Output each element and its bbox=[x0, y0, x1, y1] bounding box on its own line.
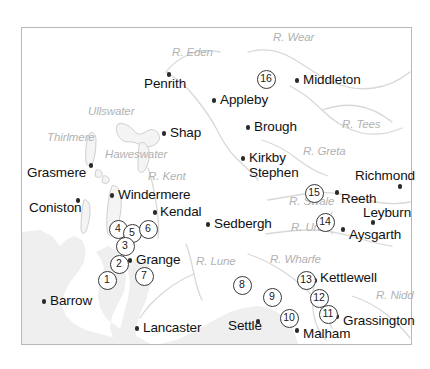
lake-coniston bbox=[81, 200, 90, 234]
town-dot bbox=[135, 326, 140, 331]
lake-rydal-small bbox=[102, 176, 109, 184]
map-marker-10[interactable]: 10 bbox=[280, 309, 299, 328]
town-label: Barrow bbox=[50, 294, 92, 308]
lake-grasmere-small bbox=[95, 170, 102, 178]
town-dot bbox=[212, 98, 217, 103]
hydro-label: R. Wharfe bbox=[270, 254, 321, 266]
map-marker-2[interactable]: 2 bbox=[110, 255, 129, 274]
town-dot bbox=[341, 227, 346, 232]
town-dot bbox=[335, 190, 340, 195]
map-container: PenrithApplebyMiddletonShapBroughKirkbyS… bbox=[0, 0, 430, 369]
town-label: Windermere bbox=[118, 188, 191, 202]
town-label: Middleton bbox=[303, 73, 361, 87]
hydro-label: Haweswater bbox=[105, 149, 167, 161]
town-dot bbox=[153, 210, 158, 215]
town-dot bbox=[76, 198, 81, 203]
hydro-label: Thirlmere bbox=[47, 132, 95, 144]
town-dot bbox=[42, 299, 47, 304]
town-label: Brough bbox=[254, 120, 297, 134]
town-label: Leyburn bbox=[363, 206, 411, 220]
town-label: Malham bbox=[303, 327, 350, 341]
map-marker-9[interactable]: 9 bbox=[263, 288, 282, 307]
town-dot bbox=[371, 220, 376, 225]
hydro-label: Ullswater bbox=[88, 106, 134, 118]
town-dot bbox=[206, 222, 211, 227]
map-marker-16[interactable]: 16 bbox=[257, 70, 276, 89]
town-label: Aysgarth bbox=[349, 228, 401, 242]
town-dot bbox=[110, 193, 115, 198]
hydro-label: R. Lune bbox=[196, 256, 236, 268]
town-label: KirkbyStephen bbox=[249, 151, 299, 180]
town-label: Sedbergh bbox=[214, 217, 272, 231]
town-label: Appleby bbox=[220, 93, 268, 107]
hydro-label: R. Nidd bbox=[376, 290, 414, 302]
hydro-label: R. Eden bbox=[172, 47, 213, 59]
map-marker-13[interactable]: 13 bbox=[297, 271, 316, 290]
hydro-label: R. Tees bbox=[342, 119, 381, 131]
town-label: Lancaster bbox=[143, 321, 201, 335]
town-label: Reeth bbox=[341, 192, 377, 206]
town-dot bbox=[256, 319, 261, 324]
town-dot bbox=[89, 163, 94, 168]
town-dot bbox=[295, 78, 300, 83]
town-label: Kendal bbox=[160, 205, 201, 219]
town-dot bbox=[241, 156, 246, 161]
map-marker-6[interactable]: 6 bbox=[139, 220, 158, 239]
hydro-label: R. Wear bbox=[273, 32, 314, 44]
town-label: Grassington bbox=[343, 314, 415, 328]
map-marker-15[interactable]: 15 bbox=[305, 184, 324, 203]
map-marker-14[interactable]: 14 bbox=[316, 213, 335, 232]
town-label: Grange bbox=[136, 253, 180, 267]
town-label: Penrith bbox=[144, 77, 186, 91]
map-marker-7[interactable]: 7 bbox=[135, 267, 154, 286]
town-dot bbox=[295, 328, 300, 333]
river-lune bbox=[186, 244, 202, 300]
town-label: Shap bbox=[170, 126, 201, 140]
town-dot bbox=[167, 72, 172, 77]
town-dot bbox=[162, 131, 167, 136]
town-label: Richmond bbox=[355, 169, 415, 183]
town-dot bbox=[246, 125, 251, 130]
hydro-label: R. Kent bbox=[148, 171, 186, 183]
town-label: Kettlewell bbox=[320, 271, 377, 285]
map-marker-1[interactable]: 1 bbox=[98, 271, 117, 290]
hydro-label: R. Greta bbox=[303, 146, 346, 158]
town-dot bbox=[398, 184, 403, 189]
town-label: Grasmere bbox=[27, 166, 86, 180]
map-marker-3[interactable]: 3 bbox=[116, 237, 135, 256]
town-label: Coniston bbox=[29, 201, 81, 215]
lake-ullswater bbox=[116, 123, 159, 146]
map-marker-8[interactable]: 8 bbox=[233, 276, 252, 295]
map-marker-11[interactable]: 11 bbox=[319, 305, 338, 324]
